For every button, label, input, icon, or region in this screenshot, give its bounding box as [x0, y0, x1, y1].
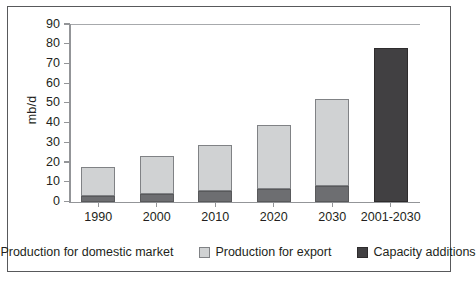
bar-segment[interactable] [315, 186, 349, 202]
y-tick-label: 0 [20, 195, 60, 207]
bar-segment[interactable] [257, 125, 291, 189]
legend-item[interactable]: Production for export [199, 245, 331, 259]
x-tick-mark [273, 202, 274, 207]
y-tick-mark [64, 181, 70, 182]
y-tick-label: 90 [20, 18, 60, 30]
y-tick-mark [64, 102, 70, 103]
y-tick-mark [64, 23, 70, 24]
y-axis-line [69, 24, 71, 202]
y-tick-label: 60 [20, 77, 60, 89]
y-tick-label: 10 [20, 175, 60, 187]
y-tick-mark [64, 63, 70, 64]
y-tick-label: 80 [20, 37, 60, 49]
y-tick-mark [64, 83, 70, 84]
legend-item[interactable]: Production for domestic market [0, 245, 173, 259]
y-tick-label: 30 [20, 136, 60, 148]
y-tick-label: 70 [20, 57, 60, 69]
legend-label: Production for export [215, 245, 331, 259]
bar-group[interactable] [374, 48, 408, 202]
x-tick-mark [156, 202, 157, 207]
x-tick-mark [390, 202, 391, 207]
bar-segment[interactable] [81, 167, 115, 196]
bar-group[interactable] [140, 156, 174, 201]
legend-label: Capacity additions [373, 245, 475, 259]
bar-segment[interactable] [315, 99, 349, 186]
y-tick-label: 20 [20, 156, 60, 168]
y-tick-mark [64, 122, 70, 123]
bar-segment[interactable] [198, 191, 232, 202]
y-tick-mark [64, 201, 70, 202]
y-tick-label: 40 [20, 116, 60, 128]
legend-item[interactable]: Capacity additions [357, 245, 475, 259]
legend-label: Production for domestic market [0, 245, 173, 259]
bar-segment[interactable] [140, 156, 174, 193]
x-tick-label: 2001-2030 [351, 210, 431, 224]
y-tick-mark [64, 43, 70, 44]
legend-swatch-icon [357, 247, 368, 258]
bar-segment[interactable] [198, 145, 232, 190]
plot-area: mb/d 0102030405060708090 199020002010202… [8, 7, 452, 273]
bar-segment[interactable] [374, 48, 408, 202]
bar-group[interactable] [315, 99, 349, 202]
y-axis-label: mb/d [25, 80, 39, 140]
chart-frame: mb/d 0102030405060708090 199020002010202… [7, 6, 451, 272]
plot-top-border [69, 24, 420, 26]
legend-swatch-icon [199, 247, 210, 258]
bar-group[interactable] [198, 145, 232, 201]
y-tick-mark [64, 161, 70, 162]
bar-segment[interactable] [257, 189, 291, 202]
bar-group[interactable] [257, 125, 291, 202]
x-tick-mark [215, 202, 216, 207]
y-tick-label: 50 [20, 96, 60, 108]
y-tick-mark [64, 142, 70, 143]
x-tick-mark [332, 202, 333, 207]
bar-segment[interactable] [140, 194, 174, 202]
chart-legend: Production for domestic marketProduction… [8, 241, 452, 263]
x-axis-line [69, 202, 420, 204]
bar-segment[interactable] [81, 196, 115, 202]
bar-group[interactable] [81, 167, 115, 202]
x-tick-mark [98, 202, 99, 207]
